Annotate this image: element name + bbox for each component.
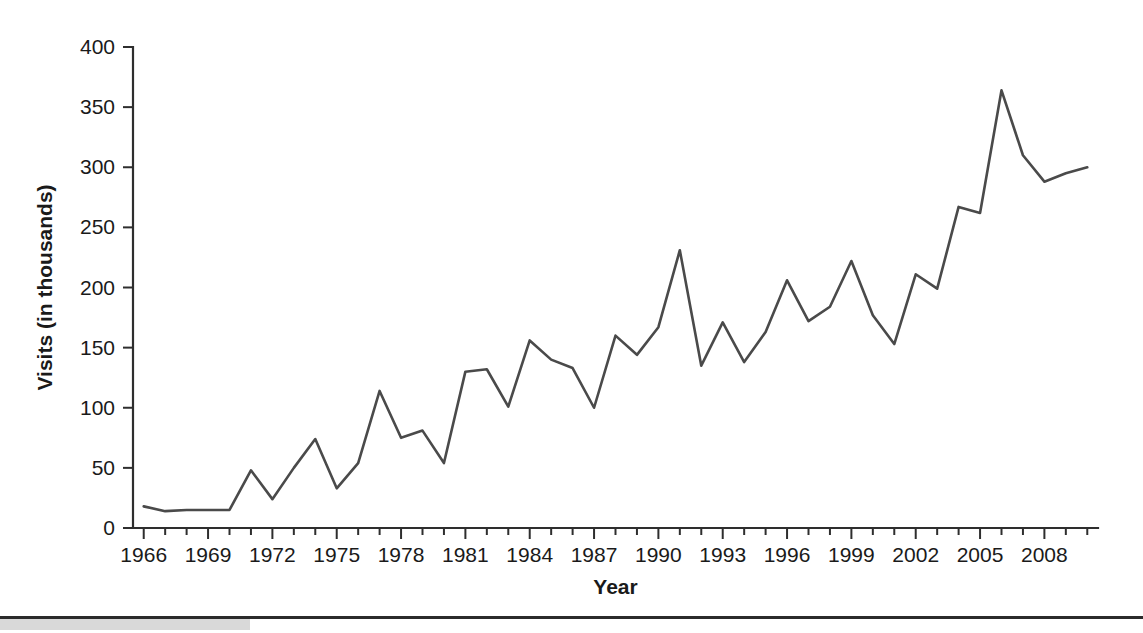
y-tick-label: 300: [80, 155, 115, 178]
x-tick-label: 1993: [699, 543, 746, 566]
y-tick-label: 0: [103, 516, 115, 539]
x-tick-label: 1990: [635, 543, 682, 566]
x-tick-label: 2008: [1021, 543, 1068, 566]
x-tick-label: 1975: [313, 543, 360, 566]
x-axis-title: Year: [593, 575, 637, 598]
x-axis-tick-marks: [144, 528, 1088, 539]
y-axis-tick-labels: 050100150200250300350400: [80, 35, 115, 539]
footer-gray-band: [0, 619, 250, 630]
x-tick-label: 1984: [506, 543, 553, 566]
x-tick-label: 1969: [185, 543, 232, 566]
y-axis-title: Visits (in thousands): [33, 184, 56, 390]
y-tick-label: 100: [80, 396, 115, 419]
chart-figure: 050100150200250300350400 196619691972197…: [0, 0, 1143, 633]
x-axis-tick-labels: 1966196919721975197819811984198719901993…: [120, 543, 1067, 566]
x-tick-label: 1972: [249, 543, 296, 566]
y-tick-label: 400: [80, 35, 115, 58]
x-tick-label: 1978: [378, 543, 425, 566]
x-tick-label: 2005: [957, 543, 1004, 566]
y-tick-label: 250: [80, 215, 115, 238]
x-tick-label: 1999: [828, 543, 875, 566]
x-tick-label: 1966: [120, 543, 167, 566]
y-tick-label: 150: [80, 336, 115, 359]
line-chart: 050100150200250300350400 196619691972197…: [0, 0, 1143, 633]
x-tick-label: 1987: [571, 543, 618, 566]
y-tick-label: 200: [80, 276, 115, 299]
x-tick-label: 2002: [892, 543, 939, 566]
y-tick-label: 350: [80, 95, 115, 118]
visits-series-line: [144, 90, 1088, 511]
x-tick-label: 1981: [442, 543, 489, 566]
y-axis-tick-marks: [123, 47, 133, 528]
y-tick-label: 50: [92, 456, 115, 479]
x-tick-label: 1996: [764, 543, 811, 566]
